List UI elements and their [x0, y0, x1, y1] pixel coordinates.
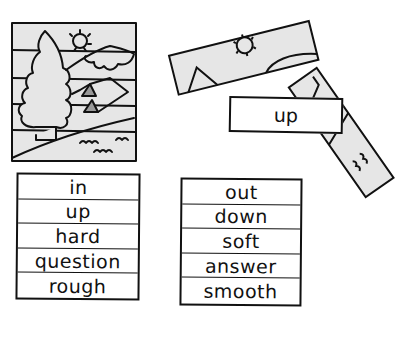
right-word-list: out down soft answer smooth: [179, 177, 302, 306]
word-label: soft: [222, 230, 260, 252]
loose-word-label: up: [274, 104, 298, 126]
left-word-row[interactable]: question: [18, 248, 138, 274]
left-word-row[interactable]: up: [18, 199, 138, 225]
word-label: down: [214, 205, 267, 227]
right-word-row[interactable]: down: [182, 204, 300, 230]
left-word-row[interactable]: in: [18, 174, 138, 200]
word-label: question: [35, 249, 121, 272]
word-label: up: [66, 200, 91, 222]
scene-picture: [12, 23, 136, 161]
left-word-list: in up hard question rough: [15, 172, 140, 300]
word-label: smooth: [203, 279, 277, 302]
loose-word-card[interactable]: up: [229, 96, 344, 134]
left-word-row[interactable]: rough: [17, 273, 137, 299]
word-label: out: [225, 181, 258, 203]
right-word-row[interactable]: out: [182, 179, 300, 205]
right-word-row[interactable]: smooth: [181, 278, 299, 304]
right-word-row[interactable]: answer: [182, 253, 300, 279]
word-label: answer: [205, 254, 277, 277]
left-word-row[interactable]: hard: [18, 224, 138, 250]
right-word-row[interactable]: soft: [182, 229, 300, 255]
word-label: rough: [49, 274, 107, 297]
word-label: in: [69, 176, 88, 198]
word-label: hard: [55, 225, 100, 247]
